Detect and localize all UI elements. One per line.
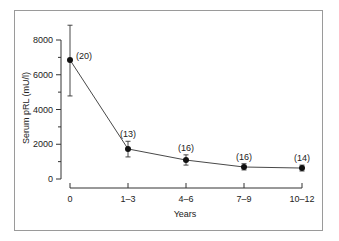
chart: 02000400060008000 01–34–67–910–12 (20)(1… (0, 0, 339, 241)
data-point (241, 164, 247, 170)
x-tick-label: 1–3 (120, 194, 135, 204)
data-label: (14) (294, 153, 310, 163)
y-tick-label: 8000 (33, 35, 53, 45)
x-tick-label: 0 (67, 194, 72, 204)
y-axis-label: Serum pRL (mU/l) (21, 72, 31, 144)
data-point (67, 57, 73, 63)
data-label: (16) (178, 143, 194, 153)
y-tick-label: 4000 (33, 105, 53, 115)
data-label: (16) (236, 152, 252, 162)
series: (20)(13)(16)(16)(14) (67, 25, 310, 171)
data-point (183, 157, 189, 163)
x-tick-label: 7–9 (236, 194, 251, 204)
y-ticks: 02000400060008000 (33, 35, 61, 184)
y-tick-label: 0 (48, 174, 53, 184)
y-tick-label: 6000 (33, 70, 53, 80)
data-label: (20) (76, 51, 92, 61)
x-tick-label: 10–12 (289, 194, 314, 204)
y-tick-label: 2000 (33, 139, 53, 149)
data-point (125, 146, 131, 152)
data-label: (13) (120, 129, 136, 139)
data-point (299, 165, 305, 171)
x-axis-label: Years (174, 209, 197, 219)
x-ticks: 01–34–67–910–12 (67, 183, 314, 204)
x-tick-label: 4–6 (178, 194, 193, 204)
